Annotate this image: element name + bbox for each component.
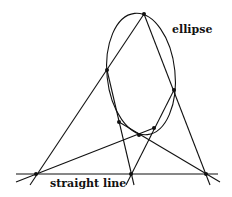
- line-b: [144, 14, 210, 185]
- ellipse-label: ellipse: [172, 24, 212, 35]
- line-a: [30, 14, 144, 185]
- point: [117, 120, 121, 124]
- pascal-diagram: ellipse straight line: [0, 0, 232, 197]
- line-d: [126, 90, 174, 185]
- point: [105, 68, 109, 72]
- line-c: [107, 70, 134, 185]
- point: [129, 172, 133, 176]
- point: [172, 88, 176, 92]
- ellipse-curve: [101, 10, 181, 138]
- point: [204, 172, 208, 176]
- point: [142, 12, 146, 16]
- straight-line-label: straight line: [50, 178, 126, 189]
- point: [137, 133, 141, 137]
- point: [152, 126, 156, 130]
- point: [34, 172, 38, 176]
